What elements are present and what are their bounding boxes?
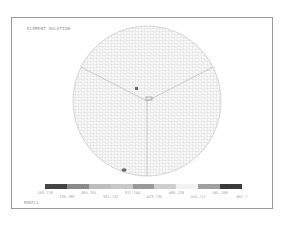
mesh-disk (72, 25, 222, 177)
legend-label: 153.776 (37, 191, 52, 195)
legend-label: 515.717 (191, 195, 206, 199)
legend-label: 469.728 (169, 191, 184, 195)
legend-label: 607.7 (237, 195, 248, 199)
legend-label: 229.769 (59, 195, 74, 199)
legend-swatch (176, 184, 198, 189)
legend-swatch (67, 184, 89, 189)
hotspot-marker (135, 87, 138, 90)
plot-title: ELEMENT SOLUTION (27, 26, 70, 31)
model-label: MODEL1 (24, 200, 38, 205)
legend-label: 377.745 (125, 191, 140, 195)
legend-swatch (154, 184, 176, 189)
legend-swatch (133, 184, 155, 189)
legend-swatch (89, 184, 111, 189)
legend-color-bar (45, 184, 242, 189)
legend-swatch (111, 184, 133, 189)
legend-swatch (220, 184, 242, 189)
legend-label: 305.761 (81, 191, 96, 195)
legend-label: 423.735 (147, 195, 162, 199)
legend-label: 561.708 (213, 191, 228, 195)
legend-swatch (45, 184, 67, 189)
legend-swatch (198, 184, 220, 189)
legend-label: 331.752 (103, 195, 118, 199)
